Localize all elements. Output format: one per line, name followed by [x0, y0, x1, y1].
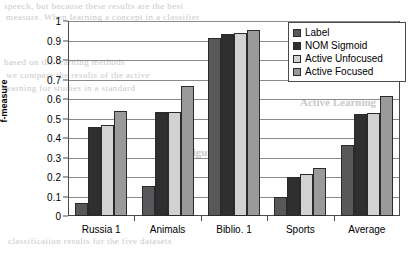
x-axis-ticks — [68, 216, 400, 222]
legend-label: NOM Sigmoid — [305, 40, 367, 51]
bar-group — [68, 21, 134, 216]
bar — [88, 127, 101, 216]
legend-item: Active Focused — [293, 65, 402, 78]
bar — [155, 112, 168, 216]
bar — [142, 186, 155, 216]
bar — [313, 168, 326, 216]
bar — [75, 203, 88, 216]
x-axis-tick-mark — [267, 216, 268, 221]
y-axis-tick-label: 0.1 — [47, 191, 61, 202]
y-axis-tick-label: 1 — [55, 16, 61, 27]
x-axis-tick-mark — [201, 216, 202, 221]
legend-swatch-icon — [293, 29, 301, 37]
bar — [300, 174, 313, 216]
bar-chart: f-measure 00.10.20.30.40.50.60.70.80.91 … — [0, 0, 416, 255]
y-axis-tick-label: 0.3 — [47, 152, 61, 163]
y-axis-tick-label: 0.6 — [47, 94, 61, 105]
y-axis-tick-label: 0.5 — [47, 113, 61, 124]
x-axis-tick-label: Sports — [286, 224, 315, 235]
y-axis-tick-label: 0.9 — [47, 35, 61, 46]
y-axis-tick-label: 0.4 — [47, 133, 61, 144]
legend-label: Active Unfocused — [305, 53, 383, 64]
x-axis-tick-mark — [334, 216, 335, 221]
bar — [367, 113, 380, 216]
bar — [101, 125, 114, 216]
legend-item: NOM Sigmoid — [293, 39, 402, 52]
y-axis-tick-label: 0 — [55, 211, 61, 222]
x-axis-tick-label: Average — [348, 224, 385, 235]
y-axis-ticks: 00.10.20.30.40.50.60.70.80.91 — [0, 21, 68, 216]
y-axis-tick-label: 0.2 — [47, 172, 61, 183]
y-axis-tick-label: 0.7 — [47, 74, 61, 85]
bar — [181, 86, 194, 216]
bar — [274, 197, 287, 216]
bar — [247, 30, 260, 216]
bar — [221, 34, 234, 216]
bar — [354, 114, 367, 216]
x-axis-labels: Russia 1AnimalsBiblio. 1SportsAverage — [68, 224, 400, 240]
legend-label: Label — [305, 27, 329, 38]
bar — [114, 111, 127, 216]
legend-swatch-icon — [293, 55, 301, 63]
x-axis-tick-label: Russia 1 — [82, 224, 121, 235]
x-axis-tick-mark — [134, 216, 135, 221]
bar — [168, 112, 181, 216]
x-axis-tick-label: Animals — [150, 224, 186, 235]
x-axis-tick-label: Biblio. 1 — [216, 224, 252, 235]
legend-swatch-icon — [293, 68, 301, 76]
legend: LabelNOM SigmoidActive UnfocusedActive F… — [288, 22, 406, 82]
y-axis-tick-label: 0.8 — [47, 55, 61, 66]
bar — [208, 38, 221, 216]
bar — [380, 96, 393, 216]
legend-swatch-icon — [293, 42, 301, 50]
legend-item: Active Unfocused — [293, 52, 402, 65]
bar-group — [134, 21, 200, 216]
bar — [234, 33, 247, 216]
bar-group — [201, 21, 267, 216]
bar — [341, 145, 354, 216]
bar — [287, 177, 300, 216]
legend-item: Label — [293, 26, 402, 39]
legend-label: Active Focused — [305, 66, 373, 77]
